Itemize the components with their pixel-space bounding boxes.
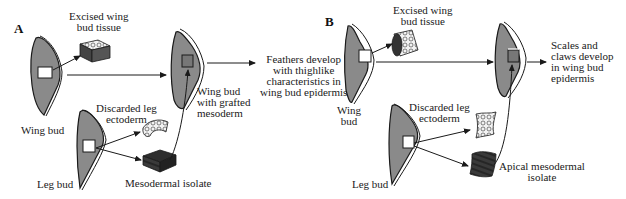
label-wing-bud-a: Wing bud <box>21 125 64 136</box>
arrow-leg-mesoderm-b <box>414 146 468 166</box>
label-excised-wing-tissue-b: Excised wing bud tissue <box>393 5 453 27</box>
label-leg-bud-b: Leg bud <box>352 179 388 190</box>
excision-site-leg-b <box>403 136 414 148</box>
graft-site-a <box>182 55 193 67</box>
apical-mesodermal-isolate-b <box>470 152 496 177</box>
label-mesodermal-isolate-a: Mesodermal isolate <box>125 178 211 189</box>
label-result-b: Scales and claws develop in wing bud epi… <box>551 40 614 84</box>
excised-tissue-a <box>80 40 110 62</box>
arrow-excise-b <box>372 44 392 53</box>
wing-bud-b <box>345 24 374 104</box>
label-discarded-ectoderm-b: Discarded leg ectoderm <box>409 102 470 124</box>
panel-b-label: B <box>325 14 334 30</box>
arrow-leg-mesoderm-a <box>96 148 141 160</box>
wing-bud-a <box>31 36 62 116</box>
graft-site-b <box>508 50 519 62</box>
label-wing-bud-b: Wing bud <box>337 105 361 127</box>
label-result-a: Feathers develop with thighlike characte… <box>260 54 347 98</box>
excision-site-leg-a <box>83 140 95 152</box>
label-discarded-ectoderm-a: Discarded leg ectoderm <box>96 103 157 125</box>
label-apical-isolate-b: Apical mesodermal isolate <box>499 161 585 183</box>
label-leg-bud-a: Leg bud <box>37 179 73 190</box>
arrow-leg-ectoderm-b <box>414 130 470 143</box>
excision-site-b <box>359 50 371 62</box>
excision-site-a <box>38 67 52 78</box>
discarded-ectoderm-b <box>476 112 496 138</box>
label-excised-wing-tissue-a: Excised wing bud tissue <box>69 11 129 33</box>
label-grafted-wing-bud-a: Wing bud with grafted mesoderm <box>197 86 250 119</box>
panel-a-label: A <box>14 21 23 37</box>
excised-tissue-b <box>392 30 418 56</box>
mesodermal-isolate-a <box>143 150 176 172</box>
